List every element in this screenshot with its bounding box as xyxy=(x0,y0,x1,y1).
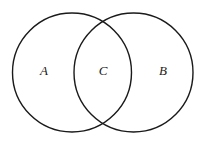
region-label-a: A xyxy=(39,63,48,78)
venn-diagram-figure: A C B xyxy=(0,0,207,149)
region-label-b: B xyxy=(159,63,167,78)
venn-diagram-canvas: A C B xyxy=(0,0,207,149)
region-label-c: C xyxy=(99,63,108,78)
